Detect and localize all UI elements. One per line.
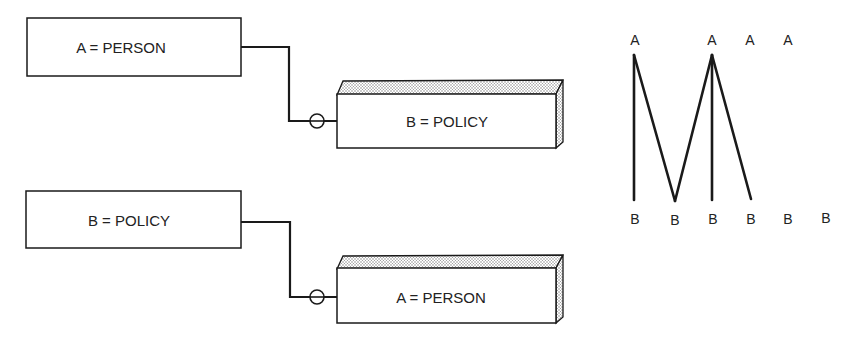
a-node-2: A — [707, 32, 717, 48]
top-source-label: A = PERSON — [76, 39, 166, 56]
top-relationship: A = PERSON B = POLICY — [27, 18, 563, 148]
a-node-1: A — [630, 32, 640, 48]
link-a2-b2 — [675, 55, 712, 201]
a-node-4: A — [783, 32, 793, 48]
top-connector-line — [241, 47, 337, 121]
link-a1-b2 — [634, 55, 675, 201]
bottom-relationship: B = POLICY A = PERSON — [26, 191, 563, 323]
b-node-6: B — [821, 210, 830, 226]
mapping-links — [634, 55, 751, 201]
bottom-target-box[interactable]: A = PERSON — [337, 255, 563, 323]
a-node-3: A — [745, 32, 755, 48]
link-a2-b4 — [712, 55, 751, 199]
b-node-2: B — [670, 212, 679, 228]
top-source-box[interactable]: A = PERSON — [27, 18, 241, 76]
b-node-1: B — [630, 211, 639, 227]
b-node-4: B — [746, 211, 755, 227]
top-target-box[interactable]: B = POLICY — [337, 80, 563, 148]
b-node-3: B — [708, 211, 717, 227]
bottom-target-label: A = PERSON — [396, 289, 486, 306]
bottom-connector-line — [241, 222, 337, 297]
bottom-source-label: B = POLICY — [88, 212, 170, 229]
bottom-source-box[interactable]: B = POLICY — [26, 191, 241, 248]
b-node-5: B — [783, 211, 792, 227]
top-target-label: B = POLICY — [406, 113, 488, 130]
instance-mapping: A A A A B B B B B B — [630, 32, 830, 228]
diagram-canvas: A = PERSON B = POLICY B = POLICY A = P — [0, 0, 843, 342]
